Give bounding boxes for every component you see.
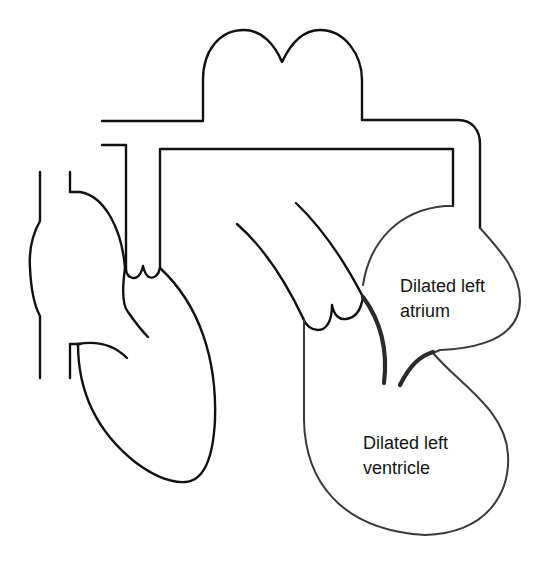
right-ventricle-wall <box>78 268 215 482</box>
left-atrium-label: Dilated left atrium <box>400 274 485 324</box>
aorta-left-wall <box>237 224 303 318</box>
pulmonary-valve <box>126 266 160 278</box>
left-atrium-label-line2: atrium <box>400 299 485 324</box>
mitral-leaflet-anterior <box>363 297 385 383</box>
aorta <box>237 203 363 330</box>
left-atrium-label-line1: Dilated left <box>400 274 485 299</box>
aortic-valve <box>303 297 363 330</box>
tricuspid-flap <box>78 343 127 358</box>
outer-vessel-line <box>102 30 480 228</box>
inner-vessel-line <box>160 149 453 266</box>
right-ventricle <box>70 268 215 482</box>
mitral-leaflet-posterior <box>400 352 433 385</box>
left-ventricle-label: Dilated left ventricle <box>363 431 448 481</box>
right-atrium <box>30 172 148 378</box>
pulmonary-circuit <box>102 30 480 270</box>
left-ventricle-label-line1: Dilated left <box>363 431 448 456</box>
left-ventricle-outline <box>304 320 508 535</box>
right-atrium-wall <box>70 172 148 337</box>
vena-cava-outer <box>30 172 40 378</box>
aorta-right-wall <box>296 203 363 297</box>
left-ventricle-label-line2: ventricle <box>363 456 448 481</box>
